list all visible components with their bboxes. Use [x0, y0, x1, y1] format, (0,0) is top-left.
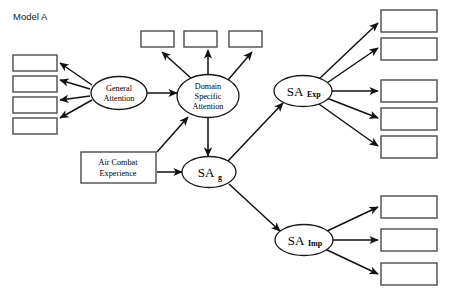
sa-g-label-base: SA: [198, 165, 215, 180]
top-indicator-1[interactable]: [141, 31, 174, 47]
structural-equation-model-diagram: Model A: [0, 0, 452, 303]
general-attention-label-line1: General: [106, 84, 133, 93]
left-indicator-4[interactable]: [13, 118, 57, 134]
general-attention-node[interactable]: General Attention: [91, 77, 147, 110]
edge-sa-g-to-sa-imp: [229, 184, 280, 231]
left-indicator-3[interactable]: [13, 97, 57, 113]
edge-ga-to-left3: [60, 96, 90, 100]
sa-exp-node[interactable]: SA Exp: [274, 76, 332, 107]
sa-g-label-subscript: g: [218, 173, 222, 182]
sa-imp-node[interactable]: SA Imp: [275, 225, 333, 256]
edge-ga-to-left4: [60, 100, 92, 118]
right-lower-indicator-3[interactable]: [381, 263, 437, 285]
air-combat-experience-label-line2: Experience: [100, 169, 137, 178]
edge-saimp-to-right1: [325, 207, 378, 232]
right-upper-indicator-2[interactable]: [381, 38, 437, 60]
edge-saexp-to-right4: [324, 97, 378, 118]
right-upper-indicator-1[interactable]: [381, 10, 437, 32]
sa-imp-label-base: SA: [288, 233, 305, 248]
air-combat-experience-box[interactable]: [81, 152, 156, 183]
sa-g-node[interactable]: SA g: [182, 157, 236, 188]
right-upper-indicator-4[interactable]: [381, 108, 437, 130]
right-lower-indicator-group: [381, 196, 437, 285]
sa-exp-label-subscript: Exp: [307, 90, 321, 99]
edge-dsa-to-top3: [228, 52, 252, 80]
sa-exp-label-base: SA: [287, 84, 304, 99]
domain-specific-attention-label-line2: Specific: [195, 92, 222, 101]
right-upper-indicator-3[interactable]: [381, 80, 437, 102]
domain-specific-attention-label-line1: Domain: [195, 82, 221, 91]
air-combat-experience-node[interactable]: Air Combat Experience: [81, 152, 156, 183]
edge-saimp-to-right3: [325, 249, 378, 274]
top-indicator-2[interactable]: [184, 31, 217, 47]
air-combat-experience-label-line1: Air Combat: [99, 158, 139, 167]
model-title: Model A: [13, 11, 48, 22]
right-upper-indicator-5[interactable]: [381, 136, 437, 158]
domain-specific-attention-label-line3: Attention: [193, 102, 224, 111]
edges-general-attention-to-left-indicators: [60, 63, 92, 118]
left-indicator-2[interactable]: [13, 76, 57, 92]
edge-saexp-to-right5: [316, 102, 378, 146]
top-indicator-group: [141, 31, 262, 47]
sa-imp-label-subscript: Imp: [308, 239, 323, 248]
top-indicator-3[interactable]: [229, 31, 262, 47]
edge-dsa-to-top1: [162, 52, 192, 79]
general-attention-ellipse[interactable]: [91, 77, 147, 110]
left-indicator-1[interactable]: [13, 55, 57, 71]
right-lower-indicator-2[interactable]: [381, 229, 437, 251]
edge-saexp-to-right1: [318, 23, 378, 80]
edge-sa-g-to-sa-exp: [228, 103, 283, 161]
right-lower-indicator-1[interactable]: [381, 196, 437, 218]
left-indicator-group: [13, 55, 57, 134]
domain-specific-attention-node[interactable]: Domain Specific Attention: [177, 75, 239, 118]
right-upper-indicator-group: [381, 10, 437, 158]
general-attention-label-line2: Attention: [104, 94, 135, 103]
diagram-canvas: Model A: [0, 0, 452, 303]
edge-air-combat-experience-to-domain-specific-attention: [157, 117, 188, 152]
